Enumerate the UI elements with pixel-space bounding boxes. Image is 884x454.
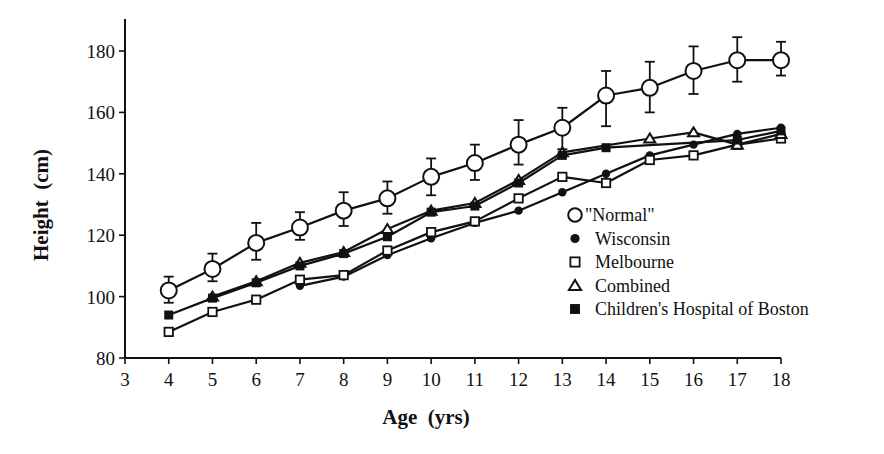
open-triangle-icon xyxy=(644,133,655,142)
x-tick-label: 17 xyxy=(728,369,747,390)
open-square-icon xyxy=(514,194,522,202)
open-square-icon xyxy=(689,151,697,159)
open-square-icon xyxy=(339,271,347,279)
filled-circle-icon xyxy=(514,206,522,214)
series-normal xyxy=(161,37,789,303)
filled-square-icon xyxy=(777,126,786,135)
y-tick-label: 80 xyxy=(96,348,115,369)
legend-label: "Normal" xyxy=(585,205,655,225)
legend-item: Wisconsin xyxy=(570,229,670,249)
y-tick-label: 140 xyxy=(87,164,116,185)
open-square-icon xyxy=(383,246,391,254)
open-circle-icon xyxy=(598,88,614,104)
open-circle-icon xyxy=(642,80,658,96)
x-tick-label: 7 xyxy=(295,369,305,390)
x-tick-label: 11 xyxy=(466,369,484,390)
filled-square-icon xyxy=(602,143,611,152)
legend-item: Combined xyxy=(569,276,670,296)
legend: "Normal"WisconsinMelbourneCombinedChildr… xyxy=(568,205,809,319)
open-circle-icon xyxy=(686,63,702,79)
open-circle-icon xyxy=(204,261,220,277)
filled-square-icon xyxy=(164,311,173,320)
growth-chart: 8010012014016018034567891011121314151617… xyxy=(0,0,884,454)
x-tick-label: 14 xyxy=(597,369,617,390)
legend-label: Combined xyxy=(595,276,670,296)
legend-item: Melbourne xyxy=(570,252,674,272)
open-circle-icon xyxy=(161,282,177,298)
x-tick-label: 18 xyxy=(772,369,791,390)
open-square-icon xyxy=(427,228,435,236)
filled-square-icon xyxy=(295,261,304,270)
x-tick-label: 12 xyxy=(509,369,528,390)
series-layer xyxy=(161,37,789,336)
filled-square-icon xyxy=(427,208,436,217)
open-circle-icon xyxy=(336,203,352,219)
y-axis-title: Height (cm) xyxy=(29,149,53,261)
x-tick-label: 15 xyxy=(640,369,659,390)
filled-square-icon xyxy=(570,304,580,314)
legend-label: Wisconsin xyxy=(595,229,670,249)
y-tick-label: 120 xyxy=(87,225,116,246)
x-tick-label: 16 xyxy=(684,369,703,390)
open-circle-icon xyxy=(511,137,527,153)
filled-circle-icon xyxy=(602,170,610,178)
y-tick-label: 100 xyxy=(87,287,116,308)
x-tick-label: 4 xyxy=(164,369,174,390)
x-tick-label: 10 xyxy=(422,369,441,390)
filled-square-icon xyxy=(208,294,217,303)
open-triangle-icon xyxy=(569,280,581,290)
open-circle-icon xyxy=(467,155,483,171)
open-circle-icon xyxy=(292,220,308,236)
open-circle-icon xyxy=(554,120,570,136)
legend-label: Children's Hospital of Boston xyxy=(595,299,809,319)
open-circle-icon xyxy=(773,52,789,68)
x-tick-label: 8 xyxy=(339,369,349,390)
x-axis-title: Age (yrs) xyxy=(382,405,469,429)
open-square-icon xyxy=(602,179,610,187)
y-tick-label: 180 xyxy=(87,41,116,62)
legend-item: Children's Hospital of Boston xyxy=(570,299,809,319)
open-square-icon xyxy=(296,276,304,284)
filled-square-icon xyxy=(514,179,523,188)
open-circle-icon xyxy=(248,235,264,251)
x-tick-label: 9 xyxy=(383,369,393,390)
open-square-icon xyxy=(558,173,566,181)
filled-square-icon xyxy=(383,232,392,241)
filled-square-icon xyxy=(339,249,348,258)
open-square-icon xyxy=(208,308,216,316)
open-square-icon xyxy=(252,295,260,303)
filled-circle-icon xyxy=(570,234,579,243)
open-circle-icon xyxy=(729,52,745,68)
open-square-icon xyxy=(570,257,579,266)
filled-square-icon xyxy=(733,136,742,145)
filled-square-icon xyxy=(558,151,567,160)
filled-square-icon xyxy=(252,278,261,287)
open-circle-icon xyxy=(379,190,395,206)
x-tick-label: 13 xyxy=(553,369,572,390)
open-triangle-icon xyxy=(688,127,699,136)
open-square-icon xyxy=(646,156,654,164)
open-circle-icon xyxy=(423,169,439,185)
legend-label: Melbourne xyxy=(595,252,674,272)
open-square-icon xyxy=(471,217,479,225)
x-tick-label: 5 xyxy=(208,369,218,390)
legend-item: "Normal" xyxy=(568,205,654,225)
open-square-icon xyxy=(165,328,173,336)
filled-circle-icon xyxy=(558,188,566,196)
filled-square-icon xyxy=(470,202,479,211)
x-tick-label: 3 xyxy=(120,369,130,390)
x-tick-label: 6 xyxy=(251,369,261,390)
series-wisconsin xyxy=(296,124,785,291)
y-tick-label: 160 xyxy=(87,102,116,123)
open-circle-icon xyxy=(568,208,582,222)
open-triangle-icon xyxy=(382,224,393,233)
